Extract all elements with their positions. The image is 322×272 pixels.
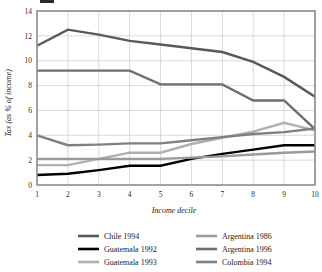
series-line-argentina-1986: [37, 151, 315, 158]
x-tick-label: 1: [35, 190, 39, 199]
legend-item-guatemala-1993[interactable]: Guatemala 1993: [78, 258, 157, 267]
legend-label: Chile 1994: [104, 232, 139, 241]
x-tick-label: 6: [190, 190, 194, 199]
legend-item-guatemala-1992[interactable]: Guatemala 1992: [78, 245, 157, 254]
y-tick-label: 6: [28, 106, 32, 115]
legend-item-chile-1994[interactable]: Chile 1994: [78, 232, 139, 241]
cropped-artifact-top: [40, 0, 54, 5]
y-tick-label: 0: [28, 181, 32, 190]
legend-label: Colombia 1994: [222, 258, 272, 267]
y-axis-tick-labels: 02468101214: [25, 7, 33, 190]
x-tick-label: 8: [251, 190, 255, 199]
y-tick-label: 12: [25, 32, 33, 41]
y-tick-label: 8: [28, 81, 32, 90]
y-tick-label: 10: [25, 56, 33, 65]
chart-container: 02468101214 12345678910 Tax (as % of inc…: [0, 0, 322, 272]
x-tick-label: 10: [311, 190, 319, 199]
series-line-colombia-1994: [37, 128, 315, 145]
x-tick-label: 2: [66, 190, 70, 199]
x-tick-label: 7: [220, 190, 224, 199]
legend-label: Argentina 1986: [222, 232, 272, 241]
legend-item-argentina-1986[interactable]: Argentina 1986: [196, 232, 272, 241]
x-tick-label: 5: [159, 190, 163, 199]
series-layer: [37, 30, 315, 175]
legend-label: Guatemala 1993: [104, 258, 157, 267]
y-tick-label: 14: [25, 7, 33, 16]
y-tick-label: 4: [28, 131, 32, 140]
legend-item-argentina-1996[interactable]: Argentina 1996: [196, 245, 272, 254]
x-tick-label: 9: [282, 190, 286, 199]
y-tick-label: 2: [28, 156, 32, 165]
x-axis-title: Income decile: [151, 206, 197, 215]
x-tick-label: 4: [128, 190, 132, 199]
legend-label: Argentina 1996: [222, 245, 272, 254]
legend-label: Guatemala 1992: [104, 245, 157, 254]
tax-by-income-decile-line-chart: 02468101214 12345678910 Tax (as % of inc…: [0, 0, 322, 272]
x-axis-tick-labels: 12345678910: [35, 190, 319, 199]
series-line-chile-1994: [37, 30, 315, 97]
chart-legend: Chile 1994Argentina 1986Guatemala 1992Ar…: [78, 232, 272, 267]
y-axis-title: Tax (as % of income): [4, 69, 13, 137]
series-line-argentina-1996: [37, 71, 315, 129]
x-tick-label: 3: [97, 190, 101, 199]
legend-item-colombia-1994[interactable]: Colombia 1994: [196, 258, 272, 267]
